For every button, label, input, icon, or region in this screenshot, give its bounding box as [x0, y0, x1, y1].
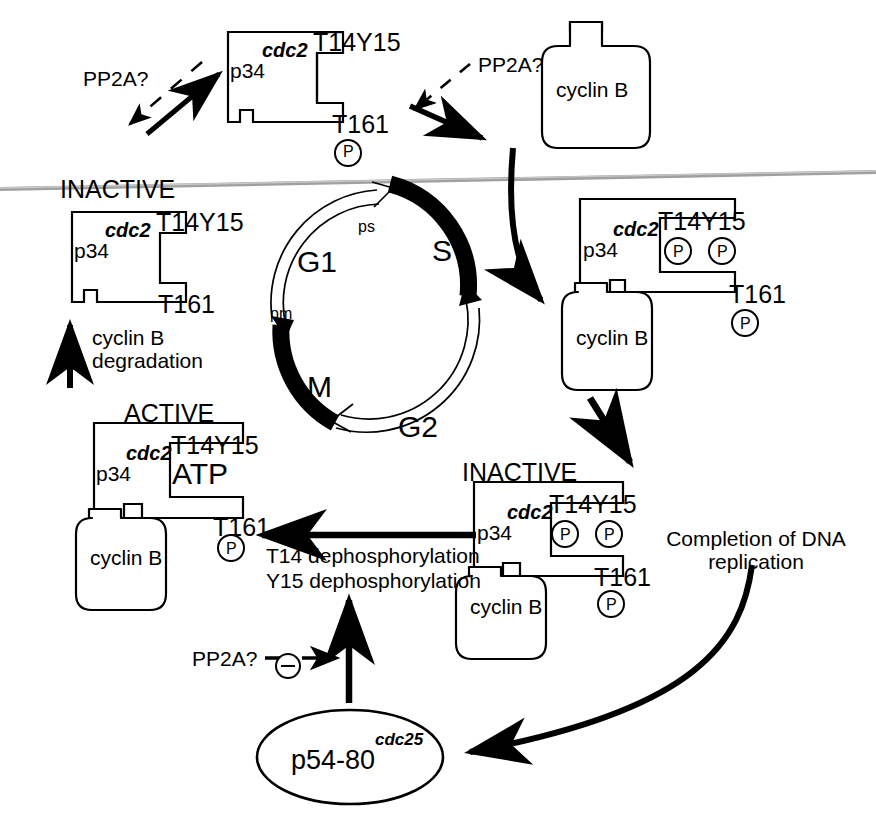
label-cyclin-b-right-lower: cyclin B — [470, 596, 542, 619]
label-dephosphorylation-line1: T14 dephosphorylation — [266, 545, 480, 568]
label-p54-80: p54-80 — [291, 746, 375, 775]
marker-label-ps: ps — [358, 218, 375, 235]
label-site-t161-left-active: T161 — [213, 514, 270, 541]
phosphate-glyph-right-lower-t161: P — [606, 596, 617, 613]
arrow-from-top-center-complex — [410, 106, 482, 138]
label-site-t161-top-center: T161 — [332, 111, 389, 138]
phase-label-M: M — [307, 371, 332, 403]
label-site-t14y15-left-inactive: T14Y15 — [156, 209, 244, 236]
inhibition-symbol — [276, 654, 300, 678]
state-label-left-active: ACTIVE — [124, 400, 214, 427]
label-dna-replication-line1: Completion of DNA — [661, 528, 851, 551]
label-pp2a-top-left: PP2A? — [83, 68, 148, 91]
label-dna-replication-line2: replication — [661, 551, 851, 574]
label-cdc25-superscript: cdc25 — [375, 731, 423, 749]
phase-label-S: S — [432, 235, 452, 267]
phosphate-glyph-right-upper-t14: P — [673, 243, 684, 260]
phosphate-glyph-right-upper-t161: P — [740, 315, 751, 332]
label-pp2a-top-right: PP2A? — [478, 54, 543, 77]
label-cyclin-b-left-active: cyclin B — [90, 547, 162, 570]
state-label-left-inactive: INACTIVE — [60, 176, 175, 203]
label-p34-left-inactive: p34 — [74, 240, 109, 263]
label-p34-right-upper: p34 — [583, 239, 618, 262]
label-site-t161-right-upper: T161 — [729, 281, 786, 308]
label-site-t161-left-inactive: T161 — [158, 291, 215, 318]
cell-cycle-wheel — [271, 182, 482, 432]
label-cdc2-top-center: cdc2 — [262, 40, 308, 62]
label-p34-top-center: p34 — [230, 60, 265, 83]
label-site-t161-right-lower: T161 — [594, 564, 651, 591]
phosphate-glyph-left-active-t161: P — [226, 540, 237, 557]
label-p34-right-lower: p34 — [477, 522, 512, 545]
diagram-root: p34 cdc2 T14Y15 T161 P PP2A? PP2A? cycli… — [0, 0, 876, 815]
label-p34-left-active: p34 — [96, 463, 131, 486]
label-cyclin-degradation-line1: cyclin B — [92, 327, 164, 350]
label-atp-left-active: ATP — [172, 458, 228, 490]
phase-label-G1: G1 — [297, 246, 337, 278]
label-site-t14y15-left-active: T14Y15 — [171, 432, 259, 459]
marker-label-pm: pm — [270, 305, 292, 322]
label-free-cyclin-b: cyclin B — [556, 79, 628, 102]
arrow-to-top-center-complex — [147, 74, 219, 134]
arrow-pp2a-top-right — [415, 64, 470, 109]
phosphate-glyph-right-lower-t14: P — [560, 526, 571, 543]
phosphate-glyph-top-center-t161: P — [343, 143, 354, 160]
label-pp2a-bottom: PP2A? — [192, 648, 257, 671]
label-cdc2-right-lower: cdc2 — [507, 502, 553, 524]
label-cdc2-left-inactive: cdc2 — [105, 220, 151, 242]
phosphate-glyph-right-lower-y15: P — [604, 526, 615, 543]
phosphate-glyph-right-upper-y15: P — [717, 243, 728, 260]
label-cdc2-right-upper: cdc2 — [613, 219, 659, 241]
label-cdc2-left-active: cdc2 — [126, 443, 172, 465]
label-site-t14y15-right-upper: T14Y15 — [658, 208, 746, 235]
label-site-t14y15-top-center: T14Y15 — [313, 29, 401, 56]
label-dephosphorylation-line2: Y15 dephosphorylation — [266, 570, 481, 593]
label-site-t14y15-right-lower: T14Y15 — [549, 491, 637, 518]
label-cyclin-b-right-upper: cyclin B — [576, 327, 648, 350]
label-cyclin-degradation-line2: degradation — [92, 350, 203, 373]
arrow-right-down — [590, 398, 630, 462]
phase-label-G2: G2 — [398, 411, 438, 443]
arrow-cyclin-b-binding — [511, 148, 541, 300]
state-label-right-lower: INACTIVE — [462, 459, 577, 486]
